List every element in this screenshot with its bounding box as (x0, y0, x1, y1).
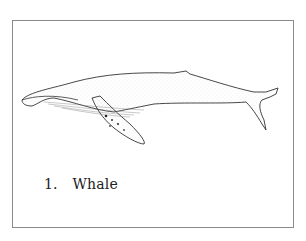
whale-illustration (14, 64, 284, 148)
caption-number: 1. (44, 176, 58, 192)
caption-label: Whale (72, 176, 118, 192)
figure-caption: 1. Whale (44, 176, 118, 192)
